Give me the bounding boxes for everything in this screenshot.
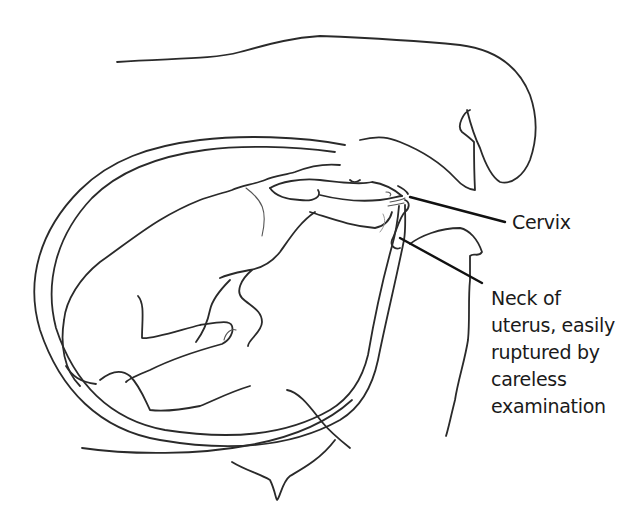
calf-forelegs <box>196 212 315 346</box>
calf-head <box>270 179 405 232</box>
neck-label-line-4: careless <box>491 366 615 393</box>
cervix-leader-line <box>410 197 505 222</box>
neck-label-line-3: ruptured by <box>491 339 615 366</box>
calf-birth-illustration <box>0 0 634 530</box>
neck-label-line-5: examination <box>491 393 615 420</box>
uterus-wall <box>34 137 405 453</box>
neck-label-line-2: uterus, easily <box>491 312 615 339</box>
neck-label-line-1: Neck of <box>491 285 615 312</box>
calf-body <box>63 165 340 386</box>
neck-of-uterus-label: Neck of uterus, easily ruptured by carel… <box>491 285 615 420</box>
cervix-label: Cervix <box>512 209 571 236</box>
rectum-outline <box>117 36 536 190</box>
diagram-canvas: Cervix Neck of uterus, easily ruptured b… <box>0 0 634 530</box>
